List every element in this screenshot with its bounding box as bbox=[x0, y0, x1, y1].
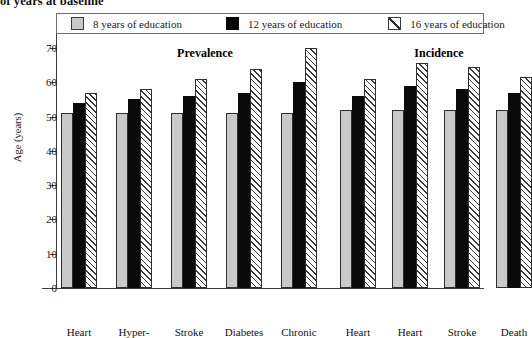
bar-black bbox=[508, 93, 520, 288]
bar-gray bbox=[392, 110, 404, 288]
bar-black bbox=[352, 96, 364, 288]
x-axis-label: Heart bbox=[398, 326, 422, 338]
bar-hatch bbox=[468, 67, 480, 288]
y-tick-label: 10 bbox=[46, 248, 57, 260]
plot-area: 010203040506070PrevalenceHeartHyper-Stro… bbox=[57, 34, 484, 288]
bar-gray bbox=[444, 110, 456, 288]
y-tick-label: 70 bbox=[46, 42, 57, 54]
bar-gray bbox=[340, 110, 352, 288]
bar-hatch bbox=[364, 79, 376, 288]
bar-black bbox=[404, 86, 416, 288]
gray-square-icon bbox=[71, 17, 84, 30]
chart-legend: 8 years of education 12 years of educati… bbox=[56, 13, 484, 34]
y-tick-label: 40 bbox=[46, 145, 57, 157]
y-tick-label: 50 bbox=[46, 111, 57, 123]
bar-hatch bbox=[140, 89, 152, 288]
bar-black bbox=[128, 99, 140, 288]
bar-group bbox=[392, 34, 428, 288]
bar-group bbox=[171, 34, 207, 288]
bar-hatch bbox=[416, 63, 428, 288]
bar-gray bbox=[496, 110, 508, 288]
bar-hatch bbox=[520, 77, 532, 288]
bar-gray bbox=[116, 113, 128, 288]
legend-item-16-years: 16 years of education bbox=[388, 14, 504, 33]
y-tick-label: 0 bbox=[52, 282, 58, 294]
bar-group bbox=[340, 34, 376, 288]
bar-group bbox=[116, 34, 152, 288]
hatched-square-icon bbox=[388, 17, 401, 30]
y-tick-label: 30 bbox=[46, 179, 57, 191]
x-axis-label: Chronic bbox=[281, 326, 316, 338]
y-axis-title: Age (years) bbox=[12, 99, 23, 177]
bar-hatch bbox=[250, 69, 262, 288]
bar-gray bbox=[171, 113, 183, 288]
y-tick-label: 20 bbox=[46, 213, 57, 225]
bar-group bbox=[226, 34, 262, 288]
bar-group bbox=[444, 34, 480, 288]
x-axis-label: Death bbox=[501, 326, 527, 338]
bar-group bbox=[61, 34, 97, 288]
legend-item-12-years: 12 years of education bbox=[226, 14, 342, 33]
black-square-icon bbox=[226, 17, 239, 30]
x-axis-label: Diabetes bbox=[225, 326, 263, 338]
legend-label: 8 years of education bbox=[93, 18, 182, 30]
bar-hatch bbox=[85, 93, 97, 288]
bar-gray bbox=[281, 113, 293, 288]
x-axis-label: Heart bbox=[67, 326, 91, 338]
legend-item-8-years: 8 years of education bbox=[71, 14, 182, 33]
bar-gray bbox=[226, 113, 238, 288]
x-axis-label: Hyper- bbox=[119, 326, 150, 338]
x-axis-label: Stroke bbox=[448, 326, 477, 338]
bar-group bbox=[281, 34, 317, 288]
legend-label: 16 years of education bbox=[410, 18, 504, 30]
x-axis-line bbox=[42, 288, 484, 289]
x-axis-label: Heart bbox=[346, 326, 370, 338]
bar-hatch bbox=[305, 48, 317, 288]
x-axis-label: Stroke bbox=[175, 326, 204, 338]
bar-black bbox=[238, 93, 250, 288]
bar-black bbox=[183, 96, 195, 288]
bar-group bbox=[496, 34, 532, 288]
legend-label: 12 years of education bbox=[248, 18, 342, 30]
figure-caption: of years at baseline bbox=[0, 0, 104, 9]
bar-black bbox=[293, 82, 305, 288]
bar-black bbox=[456, 89, 468, 288]
bar-hatch bbox=[195, 79, 207, 288]
y-tick-label: 60 bbox=[46, 76, 57, 88]
bar-black bbox=[73, 103, 85, 288]
bar-gray bbox=[61, 113, 73, 288]
